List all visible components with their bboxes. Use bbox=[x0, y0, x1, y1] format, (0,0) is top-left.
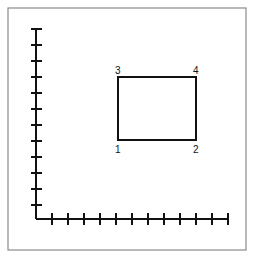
diagram-canvas: 3 4 1 2 bbox=[0, 0, 256, 258]
corner-label-1: 1 bbox=[115, 144, 121, 155]
frame-border bbox=[8, 8, 246, 250]
corner-label-4: 4 bbox=[193, 65, 199, 76]
corner-label-3: 3 bbox=[115, 65, 121, 76]
corner-label-2: 2 bbox=[193, 144, 199, 155]
